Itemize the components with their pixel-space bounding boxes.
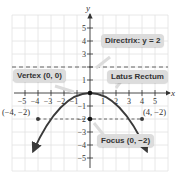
x-axis-label: x bbox=[170, 88, 175, 98]
svg-text:−5: −5 bbox=[77, 154, 86, 163]
svg-text:5: 5 bbox=[153, 97, 157, 106]
svg-text:−1: −1 bbox=[77, 102, 86, 111]
svg-text:−5: −5 bbox=[18, 97, 27, 106]
svg-text:−3: −3 bbox=[77, 128, 86, 137]
vertex-label: Vertex (0, 0) bbox=[13, 69, 66, 82]
svg-text:−4: −4 bbox=[31, 97, 40, 106]
svg-text:−2: −2 bbox=[77, 115, 86, 124]
focus-point bbox=[88, 117, 93, 122]
vertex-point bbox=[88, 91, 93, 96]
svg-text:3: 3 bbox=[82, 50, 86, 59]
point-right-label: (4, −2) bbox=[143, 107, 166, 117]
svg-text:1: 1 bbox=[82, 76, 86, 85]
svg-text:4: 4 bbox=[82, 37, 86, 46]
svg-text:5: 5 bbox=[82, 24, 86, 33]
svg-text:3: 3 bbox=[127, 97, 131, 106]
latus-rectum-label: Latus Rectum bbox=[107, 70, 168, 83]
parabola-graph: y x −5−4−3 −2−1 123 45 543 1 −1−2−3 −4−5… bbox=[0, 0, 179, 177]
focus-label: Focus (0, −2) bbox=[97, 134, 154, 147]
svg-text:−4: −4 bbox=[77, 141, 86, 150]
svg-text:−3: −3 bbox=[44, 97, 53, 106]
latus-right-point bbox=[140, 117, 144, 121]
y-axis-label: y bbox=[85, 3, 90, 13]
svg-text:1: 1 bbox=[101, 97, 105, 106]
directrix-label: Directrix: y = 2 bbox=[101, 34, 164, 47]
point-left-label: (−4, −2) bbox=[2, 107, 30, 117]
svg-text:4: 4 bbox=[140, 97, 144, 106]
svg-text:2: 2 bbox=[114, 97, 118, 106]
svg-text:−2: −2 bbox=[57, 97, 66, 106]
latus-left-point bbox=[36, 117, 40, 121]
